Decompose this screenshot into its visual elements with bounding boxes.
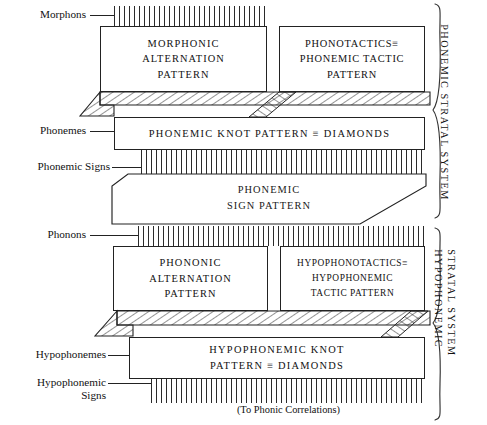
box-phonotactics: PHONOTACTICS≡ PHONEMIC TACTIC PATTERN [279, 26, 425, 92]
label-hypophonemic-signs: Hypophonemic Signs [2, 376, 106, 401]
stratificational-diagram: Morphons Phonemes Phonemic Signs Phonons… [0, 0, 487, 425]
band-morphons [114, 6, 266, 26]
crossing-hatched-bands-lower [95, 311, 430, 337]
box-line-3: PATTERN [149, 286, 232, 302]
leader-phonemes [90, 131, 115, 132]
box-text: HYPOPHONEMIC KNOT PATTERN ≡ DIAMONDS [209, 342, 344, 374]
label-phonemic-signs: Phonemic Signs [2, 160, 110, 173]
box-phonemic-sign-pattern: PHONEMIC SIGN PATTERN [110, 174, 428, 226]
box-line-1: HYPOPHONOTACTICS≡ [297, 256, 408, 271]
box-hypophonotactics: HYPOPHONOTACTICS≡ HYPOPHONEMIC TACTIC PA… [280, 246, 425, 311]
box-phononic-alternation-pattern: PHONONIC ALTERNATION PATTERN [113, 246, 268, 311]
band-hypophonemic-signs [151, 379, 426, 403]
box-line-1: PHONEMIC KNOT PATTERN ≡ DIAMONDS [149, 126, 390, 142]
box-line-1: PHONEMIC [110, 182, 428, 198]
box-line-3: PATTERN [300, 67, 405, 83]
box-line-2: HYPOPHONEMIC [297, 271, 408, 286]
crossing-hatched-bands-upper [80, 92, 430, 117]
box-morphonic-alternation-pattern: MORPHONIC ALTERNATION PATTERN [100, 26, 267, 92]
box-line-2: ALTERNATION [149, 271, 232, 287]
leader-phonons [90, 235, 138, 236]
box-line-3: PATTERN [142, 67, 225, 83]
label-phonemes: Phonemes [2, 124, 86, 137]
box-line-1: PHONONIC [149, 255, 232, 271]
box-text: MORPHONIC ALTERNATION PATTERN [142, 36, 225, 83]
box-line-2: PHONEMIC TACTIC [300, 51, 405, 67]
leader-morphons [90, 15, 114, 16]
system-label-hypophonemic-stratal-system-line2: STRATAL SYSTEM [432, 233, 471, 356]
leader-hypophonemes [108, 355, 129, 356]
box-line-2: SIGN PATTERN [110, 198, 428, 214]
system-label-phonemic-stratal-system: PHONEMIC STRATAL SYSTEM [425, 8, 464, 201]
box-line-1: MORPHONIC [142, 36, 225, 52]
box-line-2: PATTERN ≡ DIAMONDS [209, 358, 344, 374]
box-line-1: PHONOTACTICS≡ [300, 36, 405, 52]
leader-hypophonemic-signs [108, 383, 151, 384]
system-label-line-1: PHONEMIC [439, 24, 450, 89]
box-text: PHONEMIC SIGN PATTERN [110, 182, 428, 213]
system-label-line-2: STRATAL SYSTEM [446, 249, 457, 356]
box-phonemic-knot-pattern: PHONEMIC KNOT PATTERN ≡ DIAMONDS [114, 117, 425, 150]
label-hypophonemes: Hypophonemes [2, 348, 106, 361]
box-line-2: ALTERNATION [142, 51, 225, 67]
band-phonemic-signs [141, 150, 426, 174]
system-label-line-2: STRATAL SYSTEM [439, 93, 450, 200]
band-phonons [138, 226, 426, 246]
box-line-3: TACTIC PATTERN [297, 286, 408, 301]
leader-phonemic-signs [112, 167, 141, 168]
box-hypophonemic-knot-pattern: HYPOPHONEMIC KNOT PATTERN ≡ DIAMONDS [129, 337, 425, 379]
box-text: PHONONIC ALTERNATION PATTERN [149, 255, 232, 302]
box-line-1: HYPOPHONEMIC KNOT [209, 342, 344, 358]
box-text: PHONOTACTICS≡ PHONEMIC TACTIC PATTERN [300, 36, 405, 83]
footnote-to-phonic-correlations: (To Phonic Correlations) [151, 404, 426, 415]
label-phonons: Phonons [2, 228, 86, 241]
label-morphons: Morphons [2, 8, 86, 21]
box-text: HYPOPHONOTACTICS≡ HYPOPHONEMIC TACTIC PA… [297, 256, 408, 301]
